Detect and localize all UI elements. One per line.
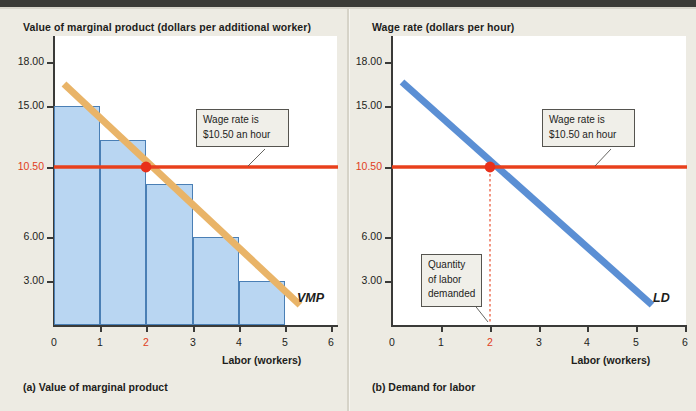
panel-b-ylabel-3: 3.00 bbox=[350, 274, 382, 286]
panel-b-xtick-6 bbox=[685, 325, 687, 332]
callout-quantity-line1: Quantity bbox=[428, 258, 475, 273]
panel-b-xlabel-3: 3 bbox=[529, 336, 549, 348]
callout-wage-rate-b-line2: $10.50 an hour bbox=[549, 128, 628, 143]
panel-b-ytick-3 bbox=[385, 281, 392, 283]
panel-b-xlabel-4: 4 bbox=[577, 336, 597, 348]
callout-wage-rate-b: Wage rate is $10.50 an hour bbox=[542, 109, 635, 147]
panel-b-x-axis-title: Labor (workers) bbox=[571, 354, 650, 366]
callout-quantity-line2: of labor bbox=[428, 273, 475, 288]
figure-page: Value of marginal product (dollars per a… bbox=[0, 0, 696, 411]
top-band bbox=[0, 0, 696, 7]
callout-quantity-demanded: Quantity of labor demanded bbox=[421, 254, 482, 307]
panel-a-ylabel-3: 3.00 bbox=[0, 274, 44, 286]
callout-wage-rate-a-line1: Wage rate is bbox=[203, 113, 282, 128]
panel-a-xtick-3 bbox=[193, 325, 195, 332]
panel-b-xtick-2 bbox=[490, 325, 492, 332]
bar-worker-4 bbox=[193, 237, 239, 325]
panel-b-y-axis bbox=[391, 36, 393, 327]
panel-a-ylabel-15: 15.00 bbox=[0, 99, 44, 111]
panel-b-xtick-4 bbox=[587, 325, 589, 332]
panel-b-xtick-5 bbox=[636, 325, 638, 332]
panel-b-xlabel-2: 2 bbox=[480, 336, 500, 348]
bar-worker-3 bbox=[146, 184, 193, 325]
panel-a-xlabel-6: 6 bbox=[321, 336, 341, 348]
panel-b-caption: (b) Demand for labor bbox=[372, 381, 475, 393]
panel-a-ytick-3 bbox=[47, 281, 54, 283]
panel-a-caption: (a) Value of marginal product bbox=[23, 381, 168, 393]
bar-worker-5 bbox=[239, 281, 285, 325]
panel-a-ytick-18 bbox=[47, 62, 54, 64]
panel-a-ylabel-18: 18.00 bbox=[0, 55, 44, 67]
panel-a-xlabel-5: 5 bbox=[275, 336, 295, 348]
panel-b-ylabel-6: 6.00 bbox=[350, 230, 382, 242]
panel-a-ylabel-6: 6.00 bbox=[0, 230, 44, 242]
panel-a-ytick-10-50 bbox=[47, 167, 54, 169]
panel-a-xtick-6 bbox=[331, 325, 333, 332]
panel-a-xtick-5 bbox=[285, 325, 287, 332]
panel-a-xtick-1 bbox=[100, 325, 102, 332]
callout-wage-rate-a-line2: $10.50 an hour bbox=[203, 128, 282, 143]
panel-a-x-axis bbox=[53, 325, 338, 327]
panel-a-xlabel-2: 2 bbox=[136, 336, 156, 348]
panel-a-xtick-2 bbox=[146, 325, 148, 332]
panel-b-xlabel-1: 1 bbox=[431, 336, 451, 348]
panel-a-xlabel-4: 4 bbox=[229, 336, 249, 348]
panel-b-xtick-3 bbox=[539, 325, 541, 332]
panel-b-ytick-15 bbox=[385, 106, 392, 108]
panel-a-xlabel-3: 3 bbox=[183, 336, 203, 348]
vmp-curve-label: VMP bbox=[297, 291, 324, 305]
panel-a-ytick-6 bbox=[47, 237, 54, 239]
callout-wage-rate-b-line1: Wage rate is bbox=[549, 113, 628, 128]
panel-value-of-marginal-product: Value of marginal product (dollars per a… bbox=[0, 9, 347, 411]
panel-a-ylabel-10-50: 10.50 bbox=[0, 160, 44, 172]
bar-worker-1 bbox=[54, 106, 100, 325]
panel-b-xlabel-0: 0 bbox=[382, 336, 402, 348]
panel-b-ytick-18 bbox=[385, 62, 392, 64]
panel-demand-for-labor: Wage rate (dollars per hour) 18.00 15.00… bbox=[350, 9, 696, 411]
panel-b-ylabel-15: 15.00 bbox=[350, 99, 382, 111]
ld-curve-label: LD bbox=[653, 291, 670, 305]
panel-a-y-axis-title: Value of marginal product (dollars per a… bbox=[23, 21, 311, 33]
panel-a-xtick-4 bbox=[239, 325, 241, 332]
callout-wage-rate-a: Wage rate is $10.50 an hour bbox=[196, 109, 289, 147]
callout-quantity-line3: demanded bbox=[428, 287, 475, 302]
panel-a-xlabel-0: 0 bbox=[44, 336, 64, 348]
panel-b-xlabel-5: 5 bbox=[626, 336, 646, 348]
panel-b-ytick-6 bbox=[385, 237, 392, 239]
panel-b-y-axis-title: Wage rate (dollars per hour) bbox=[372, 21, 514, 33]
panel-b-ylabel-10-50: 10.50 bbox=[350, 160, 382, 172]
panel-b-xtick-1 bbox=[441, 325, 443, 332]
panel-b-ylabel-18: 18.00 bbox=[350, 55, 382, 67]
bar-worker-2 bbox=[100, 140, 146, 325]
panel-a-xlabel-1: 1 bbox=[90, 336, 110, 348]
panel-a-ytick-15 bbox=[47, 106, 54, 108]
panel-b-ytick-10-50 bbox=[385, 167, 392, 169]
panel-a-x-axis-title: Labor (workers) bbox=[222, 354, 301, 366]
panel-b-xlabel-6: 6 bbox=[675, 336, 695, 348]
